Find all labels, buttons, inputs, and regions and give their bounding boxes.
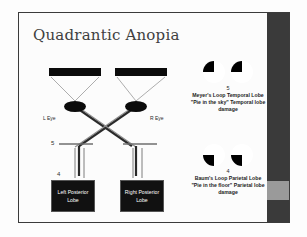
defect-panel-meyers-loop: 5 Meyer's Loop Temporal Lobe "Pie in the…	[187, 61, 269, 113]
left-posterior-lobe-box: Left Posterior Lobe	[51, 180, 95, 212]
sidebar-highlight-band	[267, 181, 289, 200]
defect-panel-baums-loop: 4 Baum's Loop Parietal Lobe "Pie in the …	[187, 144, 269, 196]
defect-number-meyers: 5	[187, 85, 269, 91]
branch-number-baums: 4	[57, 171, 60, 177]
eye-label-left: L Eye	[43, 115, 56, 121]
quadrant-fill-lower-left	[231, 155, 242, 166]
field-circle-left-upper	[203, 61, 225, 83]
field-pair-lower	[187, 144, 269, 166]
defect-caption-meyers: Meyer's Loop Temporal Lobe "Pie in the s…	[187, 92, 269, 113]
defect-number-baums: 4	[187, 168, 269, 174]
eye-right	[125, 101, 147, 112]
quadrant-fill-upper-left	[231, 61, 242, 72]
eye-label-right: R Eye	[150, 115, 164, 121]
branch-number-meyers: 5	[51, 140, 54, 146]
eye-left	[64, 101, 86, 112]
slide-canvas: Quadrantic Anopia	[19, 13, 289, 222]
slide-sidebar	[267, 13, 289, 222]
field-pair-upper	[187, 61, 269, 83]
slide-frame: Quadrantic Anopia	[18, 12, 290, 223]
right-posterior-lobe-box: Right Posterior Lobe	[120, 180, 164, 212]
quadrant-fill-lower-left	[203, 155, 214, 166]
field-circle-right-upper	[231, 61, 253, 83]
field-circle-left-lower	[203, 144, 225, 166]
visual-pathway-diagram: L Eye R Eye 5 4 Left Posterior Lobe Righ…	[37, 68, 187, 218]
quadrant-fill-upper-left	[203, 61, 214, 72]
field-circle-right-lower	[231, 144, 253, 166]
slide-screenshot: Quadrantic Anopia	[0, 0, 307, 237]
defect-caption-baums: Baum's Loop Parietal Lobe "Pie in the fl…	[187, 175, 269, 196]
page-title: Quadrantic Anopia	[33, 26, 180, 44]
